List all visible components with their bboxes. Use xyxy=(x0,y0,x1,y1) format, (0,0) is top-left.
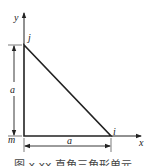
horizontal-dimension: a xyxy=(24,135,111,152)
node-j-label: j xyxy=(26,32,31,43)
x-axis: x xyxy=(111,136,144,148)
triangle-element-diagram: y x j m i a a 图 x.xx 直角三角形单元 xyxy=(0,0,149,166)
figure-caption: 图 x.xx 直角三角形单元 xyxy=(14,158,132,166)
vertical-dimension-label: a xyxy=(10,84,15,95)
y-axis: y xyxy=(13,12,24,45)
horizontal-dimension-label: a xyxy=(67,135,72,146)
y-axis-label: y xyxy=(13,12,19,23)
node-i-label: i xyxy=(113,126,116,137)
vertical-dimension: a xyxy=(8,45,22,136)
x-axis-label: x xyxy=(138,137,144,148)
triangle-element xyxy=(24,45,111,136)
